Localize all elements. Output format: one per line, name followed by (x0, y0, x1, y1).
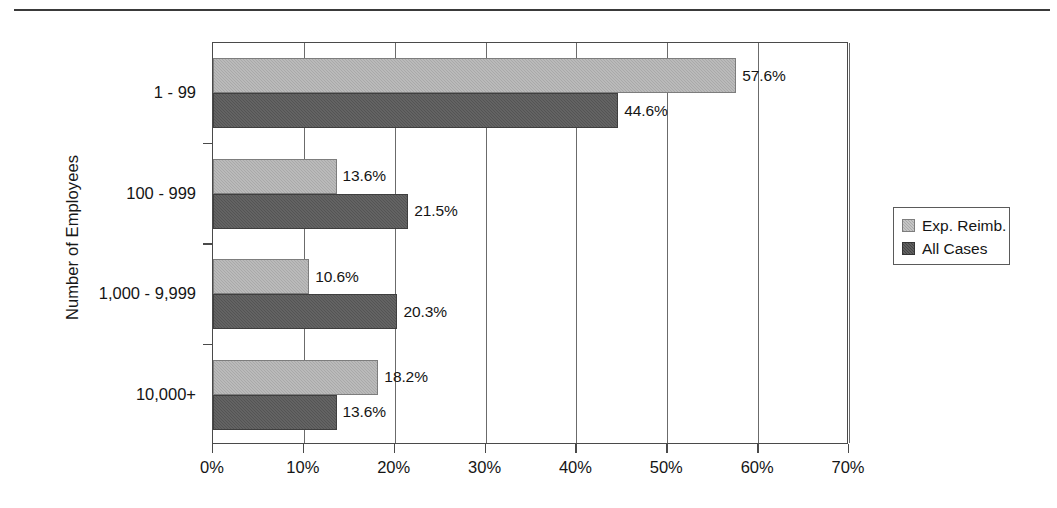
legend-label-exp-reimb: Exp. Reimb. (922, 218, 1006, 234)
plot-area (212, 42, 848, 444)
x-axis-tick-label: 20% (359, 459, 429, 476)
bar-value-label: 21.5% (414, 203, 457, 219)
legend-swatch-all-cases-icon (902, 242, 915, 255)
legend-swatch-exp-reimb-icon (902, 219, 915, 232)
y-axis-category-labels: 1 - 99100 - 9991,000 - 9,99910,000+ (0, 0, 196, 508)
legend-label-all-cases: All Cases (922, 241, 987, 257)
y-axis-category-label: 1,000 - 9,999 (6, 285, 196, 302)
x-axis-tick (212, 444, 213, 453)
bar (213, 294, 397, 329)
x-axis-tick-label: 50% (631, 459, 701, 476)
bar (213, 159, 337, 194)
legend-item[interactable]: All Cases (902, 237, 1009, 260)
chart-figure: Number of Employees 1 - 99100 - 9991,000… (0, 0, 1057, 508)
bars-container (213, 43, 847, 443)
x-axis-tick-label: 0% (177, 459, 247, 476)
bar-value-label: 20.3% (403, 304, 446, 320)
bar (213, 194, 408, 229)
y-axis-category-label: 1 - 99 (6, 84, 196, 101)
bar-value-label: 13.6% (343, 168, 386, 184)
bar (213, 58, 736, 93)
legend-item[interactable]: Exp. Reimb. (902, 214, 1009, 237)
bar-value-label: 44.6% (624, 103, 667, 119)
x-axis-tick-label: 40% (540, 459, 610, 476)
gridline (849, 43, 850, 443)
x-axis-tick-label: 60% (722, 459, 792, 476)
x-axis-tick-label: 70% (813, 459, 883, 476)
bar (213, 93, 618, 128)
bar-value-label: 13.6% (343, 404, 386, 420)
bar (213, 360, 378, 395)
bar (213, 395, 337, 430)
x-axis-tick (485, 444, 486, 453)
y-axis-category-label: 100 - 999 (6, 185, 196, 202)
legend: Exp. Reimb. All Cases (893, 207, 1010, 265)
x-axis-tick (848, 444, 849, 453)
bar-value-label: 18.2% (384, 369, 427, 385)
x-axis-tick (394, 444, 395, 453)
x-axis-tick-label: 30% (450, 459, 520, 476)
x-axis-tick (666, 444, 667, 453)
y-axis-category-label: 10,000+ (6, 386, 196, 403)
bar-value-label: 10.6% (315, 269, 358, 285)
bar (213, 259, 309, 294)
x-axis-tick (757, 444, 758, 453)
x-axis-tick (303, 444, 304, 453)
x-axis-tick-label: 10% (268, 459, 338, 476)
x-axis-tick (575, 444, 576, 453)
bar-value-label: 57.6% (742, 68, 785, 84)
